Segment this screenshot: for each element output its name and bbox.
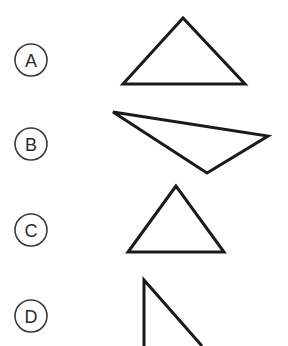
option-d-triangle (144, 280, 202, 346)
option-b-triangle (113, 112, 268, 173)
option-a-letter: A (25, 51, 37, 71)
shapes-canvas: A B C D (0, 0, 288, 346)
option-a-triangle (123, 18, 245, 84)
option-d[interactable]: D (15, 280, 202, 346)
option-b-letter: B (25, 135, 37, 155)
option-c-letter: C (25, 221, 38, 241)
option-a[interactable]: A (15, 18, 245, 84)
option-c-triangle (128, 186, 224, 252)
option-d-letter: D (25, 307, 38, 327)
option-c[interactable]: C (15, 186, 224, 252)
figure-container: A B C D (0, 0, 288, 346)
option-b[interactable]: B (15, 112, 268, 173)
